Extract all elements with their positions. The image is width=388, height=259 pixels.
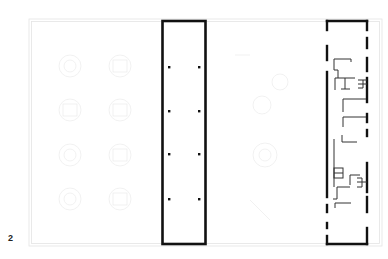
table-group xyxy=(109,188,131,210)
table-group xyxy=(253,143,277,167)
table-group xyxy=(109,144,131,166)
central-volume xyxy=(163,21,206,244)
table-group xyxy=(59,55,81,77)
table-group xyxy=(59,144,81,166)
ghost-furniture xyxy=(59,55,288,220)
table-group xyxy=(253,96,271,114)
table-group xyxy=(59,99,81,121)
interior-partitions xyxy=(333,59,367,208)
table-group xyxy=(272,74,288,90)
columns xyxy=(168,66,200,200)
floor-plan-drawing xyxy=(0,0,388,259)
table-group xyxy=(59,188,81,210)
table-group xyxy=(109,55,131,77)
right-volume xyxy=(327,21,367,244)
figure-number: 2 xyxy=(8,234,13,243)
table-group xyxy=(109,99,131,121)
